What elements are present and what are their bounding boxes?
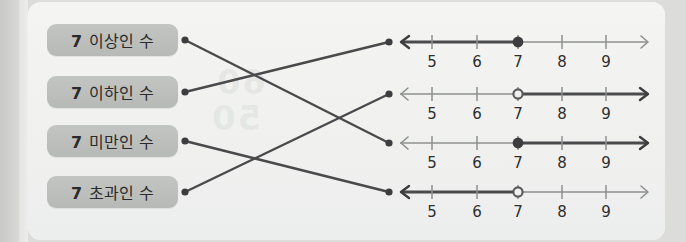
connector-group bbox=[181, 36, 392, 195]
numberline-2-ticklabel-8: 8 bbox=[557, 105, 567, 123]
connector-dot-label-le7[interactable] bbox=[181, 88, 188, 95]
connector-ge7-to-numberline-3[interactable] bbox=[185, 40, 389, 143]
numberline-2-ticklabel-6: 6 bbox=[472, 105, 482, 123]
numberline-4-ticklabel-5: 5 bbox=[427, 203, 437, 221]
numberline-3-ticklabel-8: 8 bbox=[557, 154, 567, 172]
numberline-2-ticklabel-5: 5 bbox=[427, 105, 437, 123]
numberline-1[interactable]: 5 6 7 8 9 bbox=[400, 35, 648, 71]
numberline-2[interactable]: 5 6 7 8 9 bbox=[400, 87, 648, 123]
numberline-1-ticklabel-8: 8 bbox=[557, 53, 567, 71]
connector-dot-label-ge7[interactable] bbox=[181, 36, 188, 43]
numberline-3-ticklabel-7: 7 bbox=[513, 154, 523, 172]
connector-dot-label-lt7[interactable] bbox=[181, 137, 188, 144]
connector-lt7-to-numberline-4[interactable] bbox=[185, 141, 389, 192]
diagram-overlay: 5 6 7 8 9 5 6 7 8 9 bbox=[0, 0, 686, 242]
numberline-4-ticklabel-6: 6 bbox=[472, 203, 482, 221]
numberline-2-ticklabel-9: 9 bbox=[601, 105, 611, 123]
connector-dot-numberline-4[interactable] bbox=[385, 188, 392, 195]
numberline-4-ticklabel-9: 9 bbox=[601, 203, 611, 221]
connector-dot-numberline-2[interactable] bbox=[385, 90, 392, 97]
numberline-3-ticklabel-9: 9 bbox=[601, 154, 611, 172]
connector-dot-numberline-1[interactable] bbox=[385, 38, 392, 45]
numberline-4-ticklabel-8: 8 bbox=[557, 203, 567, 221]
numberline-3[interactable]: 5 6 7 8 9 bbox=[400, 136, 648, 172]
numberline-1-ticklabel-7: 7 bbox=[513, 53, 523, 71]
connector-le7-to-numberline-1[interactable] bbox=[185, 42, 389, 92]
worksheet-page: 50 60 7이상인 수 7이하인 수 7미만인 수 7초과인 수 bbox=[0, 0, 686, 242]
numberline-4[interactable]: 5 6 7 8 9 bbox=[400, 185, 648, 221]
numberline-1-endpoint-filled-at-7 bbox=[513, 37, 524, 48]
numberline-2-ticklabel-7: 7 bbox=[513, 105, 523, 123]
numberline-3-ticklabel-5: 5 bbox=[427, 154, 437, 172]
numberline-4-endpoint-open-at-7 bbox=[513, 187, 522, 196]
connector-gt7-to-numberline-2[interactable] bbox=[185, 94, 389, 192]
numberline-2-endpoint-open-at-7 bbox=[513, 89, 522, 98]
numberline-1-ticklabel-5: 5 bbox=[427, 53, 437, 71]
numberline-3-endpoint-filled-at-7 bbox=[513, 138, 524, 149]
numberline-1-ticklabel-6: 6 bbox=[472, 53, 482, 71]
connector-dot-numberline-3[interactable] bbox=[385, 139, 392, 146]
numberline-1-ticklabel-9: 9 bbox=[601, 53, 611, 71]
numberline-4-ticklabel-7: 7 bbox=[513, 203, 523, 221]
connector-dot-label-gt7[interactable] bbox=[181, 188, 188, 195]
numberline-3-ticklabel-6: 6 bbox=[472, 154, 482, 172]
